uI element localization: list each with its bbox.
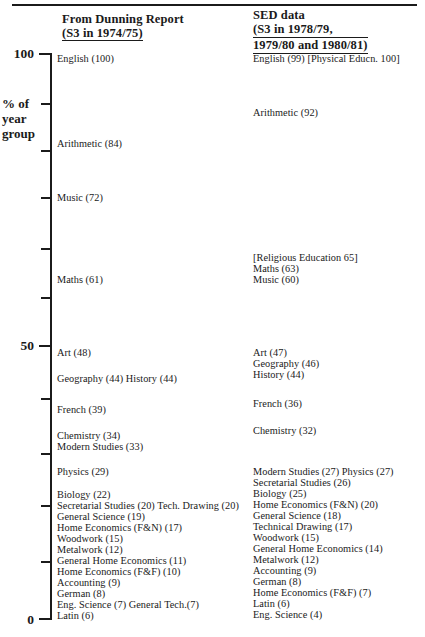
y-axis-tick-label-100: 100 (0, 47, 34, 60)
right-series-label: English (99) [Physical Educn. 100] (253, 53, 400, 64)
y-axis-tick-10 (41, 561, 52, 563)
right-series-label: Art (47) (253, 347, 287, 358)
right-series-label: Technical Drawing (17) (253, 521, 352, 532)
right-series-label: Secretarial Studies (26) (253, 477, 351, 488)
right-series-label: General Science (18) (253, 510, 341, 521)
right-series-label: Home Economics (F&N) (20) (253, 499, 378, 510)
y-axis-caption-line3: group (2, 126, 48, 141)
left-series-label: English (100) (57, 53, 114, 64)
left-column-heading: From Dunning Report (S3 in 1974/75) (62, 12, 184, 41)
left-series-label: Chemistry (34) (57, 430, 120, 441)
top-horizontal-rule (12, 4, 417, 6)
right-column-heading: SED data (S3 in 1978/79, 1979/80 and 198… (253, 8, 368, 54)
y-axis-line (50, 53, 52, 620)
left-column-heading-line2: (S3 in 1974/75) (62, 26, 143, 41)
right-series-label: General Home Economics (14) (253, 543, 383, 554)
right-column-heading-line3: 1979/80 and 1980/81) (253, 38, 368, 54)
y-axis-tick-8 (41, 453, 52, 455)
y-axis-tick-6 (39, 345, 52, 347)
left-series-label: Accounting (9) (57, 577, 120, 588)
right-series-label: Accounting (9) (253, 565, 316, 576)
left-series-label: Metalwork (12) (57, 544, 123, 555)
left-series-label: Arithmetic (84) (57, 138, 122, 149)
right-series-label: History (44) (253, 369, 304, 380)
left-series-label: General Home Economics (11) (57, 555, 186, 566)
right-series-label: French (36) (253, 398, 302, 409)
right-series-label: [Religious Education 65] (253, 252, 358, 263)
right-series-label: Geography (46) (253, 358, 319, 369)
left-series-label: Geography (44) History (44) (57, 373, 177, 384)
y-axis-tick-5 (41, 297, 52, 299)
y-axis-tick-4 (41, 248, 52, 250)
y-axis-tick-0 (39, 53, 52, 55)
right-series-label: German (8) (253, 576, 301, 587)
left-series-label: Physics (29) (57, 466, 109, 477)
y-axis-tick-3 (41, 197, 52, 199)
left-series-label: General Science (19) (57, 511, 145, 522)
right-column-heading-line1: SED data (253, 8, 368, 22)
right-series-label: Arithmetic (92) (253, 107, 318, 118)
y-axis-tick-label-50: 50 (0, 339, 34, 352)
right-series-label: Music (60) (253, 274, 299, 285)
left-series-label: Biology (22) (57, 489, 111, 500)
left-series-label: Home Economics (F&F) (10) (57, 566, 180, 577)
left-series-label: Art (48) (57, 347, 91, 358)
right-series-label: Chemistry (32) (253, 425, 316, 436)
y-axis-tick-1 (41, 103, 52, 105)
right-series-label: Eng. Science (4) (253, 609, 322, 620)
left-series-label: Maths (61) (57, 274, 103, 285)
y-axis-tick-11 (39, 618, 52, 620)
right-series-label: Woodwork (15) (253, 532, 319, 543)
left-series-label: Modern Studies (33) (57, 441, 143, 452)
y-axis-tick-2 (41, 150, 52, 152)
right-series-label: Home Economics (F&F) (7) (253, 587, 371, 598)
left-series-label: Woodwork (15) (57, 533, 123, 544)
left-series-label: German (8) (57, 588, 105, 599)
right-series-label: Latin (6) (253, 598, 290, 609)
left-column-heading-line1: From Dunning Report (62, 12, 184, 26)
left-series-label: Eng. Science (7) General Tech.(7) (57, 599, 199, 610)
left-series-label: Music (72) (57, 192, 103, 203)
right-column-heading-line2: (S3 in 1978/79, (253, 22, 368, 38)
y-axis-caption-line2: year (2, 111, 48, 126)
left-series-label: French (39) (57, 404, 106, 415)
y-axis-tick-label-0: 0 (0, 613, 34, 626)
left-series-label: Home Economics (F&N) (17) (57, 522, 182, 533)
right-series-label: Modern Studies (27) Physics (27) (253, 466, 394, 477)
y-axis-tick-7 (41, 398, 52, 400)
right-series-label: Maths (63) (253, 263, 299, 274)
right-series-label: Biology (25) (253, 488, 307, 499)
right-series-label: Metalwork (12) (253, 554, 319, 565)
y-axis-tick-9 (41, 505, 52, 507)
left-series-label: Secretarial Studies (20) Tech. Drawing (… (57, 500, 239, 511)
left-series-label: Latin (6) (57, 610, 94, 621)
